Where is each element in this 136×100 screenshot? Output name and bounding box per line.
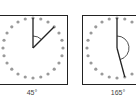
clock-dial-45 [0,16,69,86]
clock-dial-165 [83,16,136,86]
panel-165 [82,15,136,85]
caption-45: 45° [12,89,52,96]
panel-45 [0,15,68,85]
caption-165: 165° [98,89,136,96]
